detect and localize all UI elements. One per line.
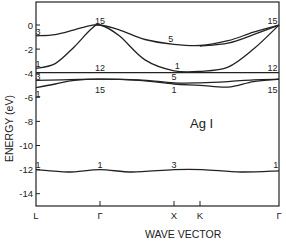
y-tick-label: -14: [19, 188, 33, 199]
x-tick-label: Γ: [276, 210, 281, 221]
y-tick-label: -2: [25, 44, 33, 55]
band-label: 3: [35, 27, 40, 37]
y-tick-label: -4: [25, 68, 33, 79]
band-curve: [36, 25, 279, 46]
band-label: 1: [35, 160, 40, 170]
y-tick-label: -8: [25, 116, 33, 127]
band-label: 1: [273, 160, 278, 170]
band-label: 1: [35, 59, 40, 69]
band-label: 1: [97, 160, 102, 170]
material-label: Ag I: [190, 116, 213, 131]
band-label: 15: [95, 16, 105, 26]
x-tick-label: Γ: [97, 210, 102, 221]
y-tick-label: -10: [19, 140, 33, 151]
y-axis-ticks: 0-2-4-6-8-10-12-14: [19, 20, 40, 200]
band-label: 3: [35, 72, 40, 82]
band-label: 3: [171, 160, 176, 170]
band-label: 1: [171, 85, 176, 95]
x-tick-label: L: [33, 210, 38, 221]
band-label: 5: [171, 72, 176, 82]
band-label: 1: [175, 61, 180, 71]
band-label: 5: [168, 34, 173, 44]
band-curve: [36, 25, 279, 72]
band-label: 15: [268, 85, 278, 95]
x-axis-ticks: LΓXKΓ: [33, 201, 281, 221]
plot-frame: [36, 2, 279, 206]
band-structure-plot: 0-2-4-6-8-10-12-14 LΓXKΓ 315515111212351…: [0, 0, 286, 243]
y-tick-label: 0: [28, 20, 33, 31]
band-label: 1: [35, 89, 40, 99]
x-axis-title: WAVE VECTOR: [145, 228, 222, 240]
y-tick-label: -6: [25, 92, 33, 103]
band-label: 12: [95, 63, 105, 73]
x-tick-label: K: [197, 210, 204, 221]
band-label: 15: [268, 16, 278, 26]
band-curve: [36, 169, 279, 172]
energy-bands: [36, 25, 279, 172]
y-tick-label: -12: [19, 164, 33, 175]
x-tick-label: X: [171, 210, 178, 221]
y-axis-title: ENERGY (eV): [3, 95, 15, 162]
band-label: 12: [268, 63, 278, 73]
band-label: 15: [95, 85, 105, 95]
